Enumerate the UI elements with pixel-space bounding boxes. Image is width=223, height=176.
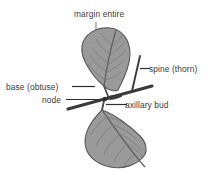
label-axillary-bud: axillary bud [125, 100, 169, 110]
leaf-diagram: margin entire base (obtuse) node spine (… [0, 0, 223, 176]
axillary-bud [107, 95, 122, 99]
upper-leaf [82, 28, 130, 96]
label-node: node [42, 95, 61, 105]
lower-leaf [85, 101, 146, 168]
axillary-bud-shape [107, 95, 122, 99]
lower-leaf-petiole [102, 101, 104, 110]
label-base-obtuse: base (obtuse) [6, 82, 59, 92]
upper-leaf-blade [82, 28, 130, 91]
spine-shaft [132, 56, 140, 91]
spine [132, 56, 140, 91]
label-spine-thorn: spine (thorn) [149, 64, 197, 74]
label-margin-entire: margin entire [74, 9, 124, 19]
